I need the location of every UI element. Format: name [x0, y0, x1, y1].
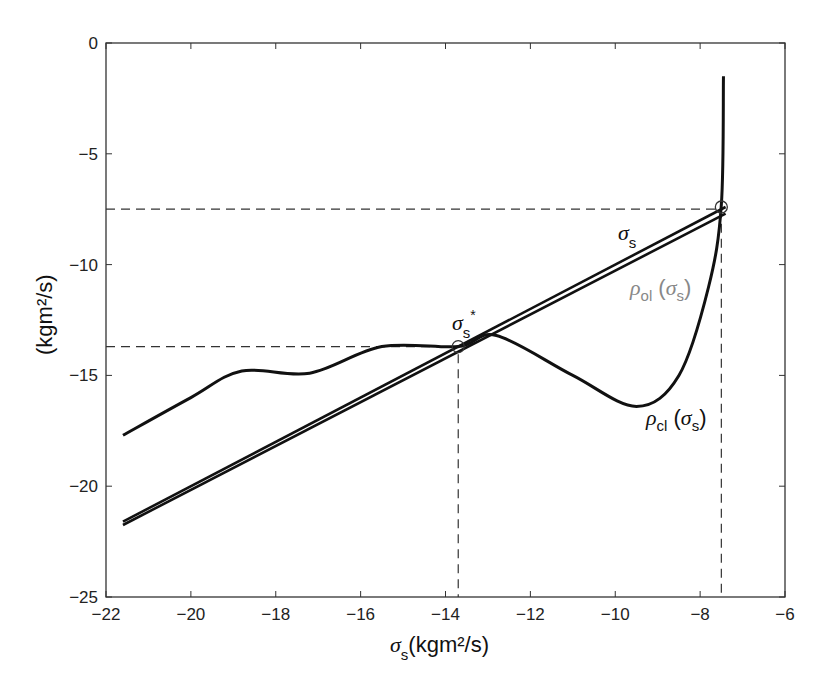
svg-text:−10: −10	[69, 256, 98, 275]
svg-text:−25: −25	[69, 588, 98, 607]
plot-axes	[106, 43, 785, 597]
svg-text:−6: −6	[775, 605, 794, 624]
svg-text:−14: −14	[431, 605, 460, 624]
dashed-guides	[106, 209, 721, 597]
svg-text:−12: −12	[516, 605, 545, 624]
svg-text:−8: −8	[690, 605, 709, 624]
svg-text:−20: −20	[176, 605, 205, 624]
svg-text:−15: −15	[69, 366, 98, 385]
annotation-sigma-star: σs*	[452, 307, 476, 341]
x-axis-label: σs(kgm²/s)	[390, 632, 489, 663]
chart: −22−20−18−16−14−12−10−8−60−5−10−15−20−25…	[0, 0, 825, 681]
svg-text:−10: −10	[601, 605, 630, 624]
svg-text:−22: −22	[92, 605, 121, 624]
series-lines	[123, 76, 726, 525]
svg-text:−20: −20	[69, 477, 98, 496]
svg-text:−16: −16	[346, 605, 375, 624]
annotation-rho-cl: ρcl (σs)	[645, 405, 707, 434]
svg-text:−5: −5	[79, 145, 98, 164]
svg-text:0: 0	[89, 34, 98, 53]
svg-text:−18: −18	[261, 605, 290, 624]
annotation-rho-ol: ρol (σs)	[629, 275, 691, 304]
y-axis-label: (kgm²/s)	[32, 274, 57, 355]
axis-ticks: −22−20−18−16−14−12−10−8−60−5−10−15−20−25	[69, 34, 795, 624]
annotation-sigma: σs	[618, 220, 636, 251]
